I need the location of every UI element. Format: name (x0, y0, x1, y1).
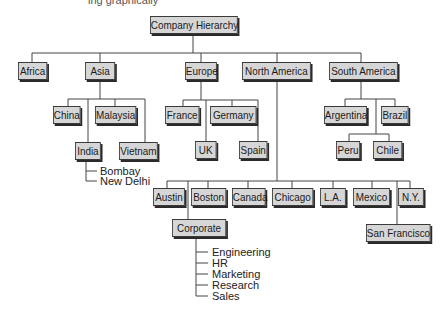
node-uk[interactable]: UK (195, 141, 217, 159)
node-mexico[interactable]: Mexico (353, 188, 390, 206)
leaf-sales: Sales (212, 291, 240, 302)
node-vietnam[interactable]: Vietnam (119, 142, 158, 160)
node-peru[interactable]: Peru (336, 141, 360, 159)
node-boston[interactable]: Boston (191, 188, 226, 206)
node-brazil[interactable]: Brazil (381, 106, 409, 124)
node-south-america[interactable]: South America (329, 62, 398, 80)
node-europe[interactable]: Europe (185, 62, 217, 80)
node-austin[interactable]: Austin (153, 188, 185, 206)
node-france[interactable]: France (165, 106, 199, 124)
node-la[interactable]: L.A. (320, 188, 346, 206)
node-chicago[interactable]: Chicago (272, 188, 313, 206)
node-asia[interactable]: Asia (85, 62, 115, 80)
node-company-hierarchy[interactable]: Company Hierarchy (150, 16, 238, 34)
node-spain[interactable]: Spain (239, 141, 267, 159)
node-ny[interactable]: N.Y. (398, 188, 424, 206)
node-chile[interactable]: Chile (373, 141, 402, 159)
node-malaysia[interactable]: Malaysia (95, 106, 136, 124)
node-india[interactable]: India (75, 142, 101, 160)
node-corporate[interactable]: Corporate (172, 219, 226, 237)
node-north-america[interactable]: North America (242, 62, 311, 80)
node-san-francisco[interactable]: San Francisco (366, 224, 431, 242)
leaf-new-delhi: New Delhi (100, 176, 150, 187)
node-germany[interactable]: Germany (210, 106, 256, 124)
node-canada[interactable]: Canada (232, 188, 266, 206)
node-argentina[interactable]: Argentina (324, 106, 367, 124)
node-africa[interactable]: Africa (18, 62, 47, 80)
node-china[interactable]: China (53, 106, 81, 124)
